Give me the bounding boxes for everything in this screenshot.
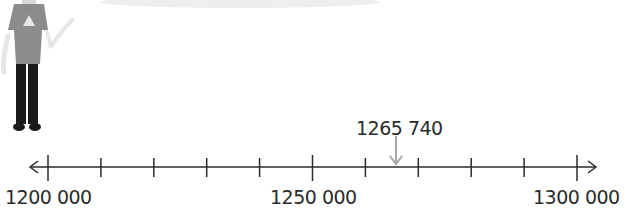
diagram-canvas bbox=[0, 0, 625, 210]
tick-label-start: 1200 000 bbox=[5, 186, 92, 208]
tick-label-end: 1300 000 bbox=[533, 186, 620, 208]
number-line bbox=[30, 155, 596, 181]
ticks bbox=[48, 155, 577, 181]
number-line-diagram: 1265 740 1200 000 1250 000 1300 000 bbox=[0, 0, 625, 210]
marker-label: 1265 740 bbox=[356, 117, 443, 139]
shadow-shape bbox=[100, 0, 380, 8]
tick-label-middle: 1250 000 bbox=[270, 186, 357, 208]
marker-arrow-icon bbox=[390, 136, 402, 164]
person-illustration bbox=[4, 0, 73, 131]
